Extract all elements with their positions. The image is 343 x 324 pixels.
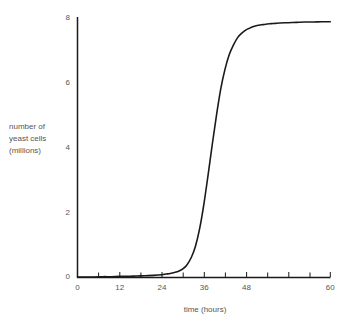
y-axis-title: number of yeast cells (millions) — [9, 121, 67, 156]
yeast-growth-curve — [78, 22, 331, 277]
y-tick-label-6: 6 — [52, 78, 70, 87]
x-tick-label-0: 0 — [66, 283, 90, 292]
x-axis-title: time (hours) — [142, 305, 268, 315]
x-tick-label-36: 36 — [192, 283, 216, 292]
x-tick-label-60: 60 — [318, 283, 342, 292]
y-tick-label-0: 0 — [52, 272, 70, 281]
y-tick-label-8: 8 — [52, 13, 70, 22]
chart-screenshot: 8 6 4 2 0 0 12 24 36 48 60 number of yea… — [0, 0, 343, 324]
y-tick-label-2: 2 — [52, 208, 70, 217]
x-tick-label-48: 48 — [235, 283, 259, 292]
yeast-growth-chart: 8 6 4 2 0 0 12 24 36 48 60 number of yea… — [0, 0, 343, 324]
x-tick-label-24: 24 — [150, 283, 174, 292]
x-tick-label-12: 12 — [108, 283, 132, 292]
